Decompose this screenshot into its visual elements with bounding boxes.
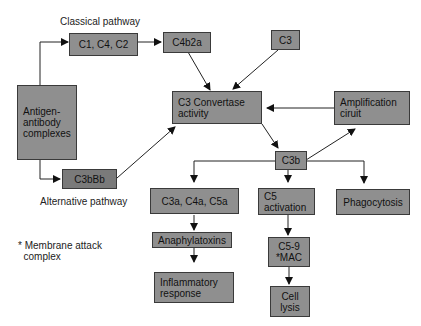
alternative-pathway-label: Alternative pathway bbox=[40, 196, 127, 207]
node-c1-c4-c2: C1, C4, C2 bbox=[69, 33, 138, 56]
node-c5-9-mac: C5-9 *MAC bbox=[268, 237, 310, 267]
node-amplification-circuit: Amplification ciruit bbox=[334, 91, 410, 125]
node-c5-activation: C5 activation bbox=[258, 188, 315, 215]
node-c3: C3 bbox=[271, 30, 300, 50]
node-antigen-antibody-complexes: Antigen- antibody complexes bbox=[17, 85, 77, 160]
node-phagocytosis: Phagocytosis bbox=[336, 189, 410, 215]
node-cell-lysis: Cell lysis bbox=[270, 286, 310, 317]
node-c3b: C3b bbox=[275, 151, 307, 170]
node-c3-convertase-activity: C3 Convertase activity bbox=[172, 91, 262, 124]
node-c3bbb: C3bBb bbox=[62, 169, 117, 189]
node-c3a-c4a-c5a: C3a, C4a, C5a bbox=[150, 188, 239, 214]
node-c4b2a: C4b2a bbox=[163, 32, 211, 53]
node-inflammatory-response: Inflammatory response bbox=[154, 272, 234, 303]
node-anaphylatoxins: Anaphylatoxins bbox=[152, 232, 232, 248]
footnote-mac: * Membrane attack complex bbox=[18, 240, 102, 262]
classical-pathway-label: Classical pathway bbox=[60, 16, 140, 27]
